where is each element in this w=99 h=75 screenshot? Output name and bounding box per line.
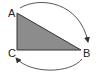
- vertex-label-b: B: [83, 47, 90, 59]
- vertex-label-c: C: [8, 47, 16, 59]
- vertex-label-a: A: [8, 7, 16, 19]
- arrow-b-to-c: [16, 58, 82, 70]
- triangle-abc: [17, 13, 81, 50]
- triangle-diagram: A B C: [0, 0, 99, 75]
